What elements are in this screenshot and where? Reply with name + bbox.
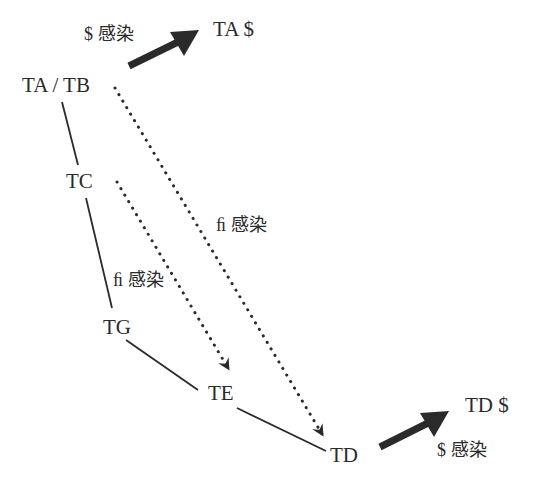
- node-te: TE: [208, 383, 234, 404]
- edge-label-short-dotted: ﬁ 感染: [113, 271, 164, 289]
- edge-label-top-arrow: $ 感染: [84, 25, 134, 43]
- edge-tc-to-tg: [86, 198, 112, 308]
- edge-te-to-td: [237, 408, 326, 451]
- output-ta: TA $: [213, 19, 254, 40]
- bold-arrow-ta-out: [129, 30, 199, 66]
- output-td: TD $: [465, 395, 509, 416]
- edge-label-long-dotted: ﬁ 感染: [216, 216, 267, 234]
- edge-ta-tb-to-tc: [62, 102, 78, 165]
- node-td: TD: [330, 445, 358, 466]
- node-tc: TC: [66, 171, 93, 192]
- node-ta-tb: TA / TB: [22, 75, 90, 96]
- diagram-canvas: TA / TB TC TG TE TD TA $ TD $ $ 感染 $ 感染 …: [0, 0, 533, 488]
- node-tg: TG: [103, 317, 131, 338]
- edge-tg-to-te: [126, 340, 198, 390]
- edge-label-bottom-arrow: $ 感染: [437, 441, 487, 459]
